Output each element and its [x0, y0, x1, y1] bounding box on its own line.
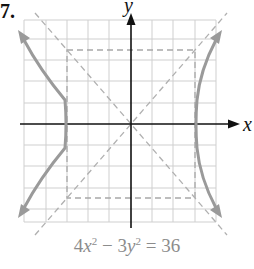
eq-equals: = — [146, 235, 157, 256]
eq-coef-x: 4 — [74, 235, 84, 256]
eq-op: − — [102, 235, 113, 256]
hyperbola-plot: x y — [0, 0, 254, 269]
axes — [20, 13, 240, 228]
x-axis-label: x — [242, 113, 252, 135]
y-axis-label: y — [122, 0, 133, 17]
eq-exp-y: 2 — [135, 235, 141, 247]
eq-exp-x: 2 — [92, 235, 98, 247]
x-axis-arrow-icon — [228, 120, 240, 129]
eq-var-x: x — [83, 235, 91, 256]
equation-caption: 4x2 − 3y2 = 36 — [0, 235, 254, 257]
eq-rhs: 36 — [161, 235, 180, 256]
eq-coef-y: 3 — [118, 235, 128, 256]
